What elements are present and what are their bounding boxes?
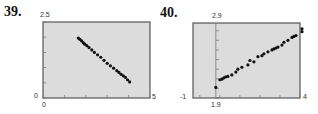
data-point: [106, 62, 109, 65]
data-point: [226, 75, 229, 78]
data-point: [109, 64, 112, 67]
data-point: [286, 39, 289, 42]
data-point: [280, 44, 283, 47]
data-point: [102, 59, 105, 62]
data-point: [240, 66, 243, 69]
data-point: [282, 41, 285, 44]
data-point: [93, 51, 96, 54]
data-point: [256, 55, 259, 58]
data-point: [230, 73, 233, 76]
data-point: [262, 52, 265, 55]
data-point: [112, 67, 115, 70]
plot-area-1: [193, 23, 300, 98]
data-point: [99, 56, 102, 59]
data-point: [300, 30, 303, 33]
data-point: [252, 60, 255, 63]
data-point: [90, 48, 93, 51]
data-point: [236, 68, 239, 71]
data-point: [246, 63, 249, 66]
data-point: [276, 45, 279, 48]
data-point: [96, 53, 99, 56]
data-point: [87, 46, 90, 49]
scatter-plots: [0, 0, 318, 114]
data-point: [248, 59, 251, 62]
data-point: [300, 27, 303, 30]
plot-area-0: [43, 22, 150, 98]
data-point: [214, 86, 217, 89]
data-point: [128, 80, 131, 83]
data-point: [234, 70, 237, 73]
data-point: [266, 50, 269, 53]
data-point: [124, 76, 127, 79]
data-point: [294, 34, 297, 37]
